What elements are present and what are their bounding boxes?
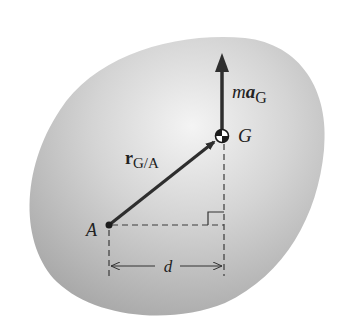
rigid-body-shape [30,37,325,315]
rigid-body-diagram: d maG G rG/A A [0,0,349,331]
distance-label: d [164,257,173,276]
point-a-dot [106,222,113,229]
center-of-mass-icon [216,130,229,143]
center-of-mass-label: G [238,125,252,146]
point-a-label: A [85,220,98,240]
